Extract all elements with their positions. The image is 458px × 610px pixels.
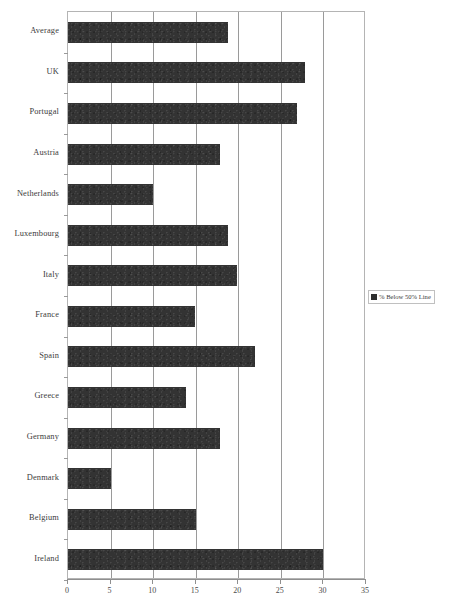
y-axis-tick xyxy=(64,215,68,216)
category-label: Netherlands xyxy=(17,189,59,199)
x-axis-tick xyxy=(365,579,366,584)
legend: % Below 50% Line xyxy=(368,290,435,304)
x-axis: 05101520253035 xyxy=(67,579,365,580)
y-axis-tick xyxy=(64,134,68,135)
x-axis-tick-label: 25 xyxy=(276,586,284,595)
x-axis-tick-label: 15 xyxy=(191,586,199,595)
y-axis-tick xyxy=(64,93,68,94)
bar xyxy=(68,306,195,327)
x-axis-tick-label: 0 xyxy=(65,586,69,595)
x-axis-tick xyxy=(237,579,238,584)
category-label: Austria xyxy=(33,148,59,158)
bar xyxy=(68,22,228,43)
gridline xyxy=(196,12,197,578)
x-axis-tick xyxy=(280,579,281,584)
x-axis-tick-label: 10 xyxy=(148,586,156,595)
category-label: Greece xyxy=(34,391,59,401)
gridline xyxy=(323,12,324,578)
category-label: Italy xyxy=(43,270,59,280)
y-axis-tick xyxy=(64,174,68,175)
x-axis-tick xyxy=(322,579,323,584)
category-label: Belgium xyxy=(29,513,59,523)
category-label: Luxembourg xyxy=(14,229,59,239)
category-label: Ireland xyxy=(34,554,59,564)
y-axis-tick xyxy=(64,296,68,297)
category-axis-labels: AverageUKPortugalAustriaNetherlandsLuxem… xyxy=(0,11,64,579)
x-axis-tick xyxy=(67,579,68,584)
x-axis-tick xyxy=(110,579,111,584)
y-axis-tick xyxy=(64,377,68,378)
gridline xyxy=(153,12,154,578)
bar xyxy=(68,62,305,83)
y-axis-tick xyxy=(64,539,68,540)
x-axis-tick-label: 30 xyxy=(318,586,326,595)
y-axis-tick xyxy=(64,458,68,459)
plot-area xyxy=(67,11,365,579)
y-axis-tick xyxy=(64,499,68,500)
x-axis-tick xyxy=(195,579,196,584)
bar xyxy=(68,225,228,246)
gridline xyxy=(238,12,239,578)
category-label: Portugal xyxy=(29,107,59,117)
bar xyxy=(68,428,220,449)
gridline xyxy=(111,12,112,578)
bar xyxy=(68,265,237,286)
bar xyxy=(68,184,153,205)
y-axis-tick xyxy=(64,337,68,338)
y-axis-tick xyxy=(64,255,68,256)
x-axis-tick-label: 35 xyxy=(361,586,369,595)
x-axis-tick-label: 20 xyxy=(233,586,241,595)
bar xyxy=(68,103,297,124)
category-label: France xyxy=(35,310,59,320)
bar xyxy=(68,144,220,165)
category-label: UK xyxy=(47,67,59,77)
bar xyxy=(68,509,196,530)
category-label: Denmark xyxy=(27,473,59,483)
bar-chart: AverageUKPortugalAustriaNetherlandsLuxem… xyxy=(0,0,458,610)
y-axis-tick xyxy=(64,418,68,419)
gridline xyxy=(281,12,282,578)
bar xyxy=(68,468,111,489)
y-axis-tick xyxy=(64,53,68,54)
x-axis-tick-label: 5 xyxy=(108,586,112,595)
bar xyxy=(68,549,323,570)
bar xyxy=(68,346,255,367)
legend-swatch-icon xyxy=(371,294,377,300)
category-label: Spain xyxy=(39,351,59,361)
category-label: Average xyxy=(30,26,59,36)
legend-label: % Below 50% Line xyxy=(379,293,431,301)
category-label: Germany xyxy=(27,432,59,442)
bar xyxy=(68,387,186,408)
x-axis-tick xyxy=(152,579,153,584)
